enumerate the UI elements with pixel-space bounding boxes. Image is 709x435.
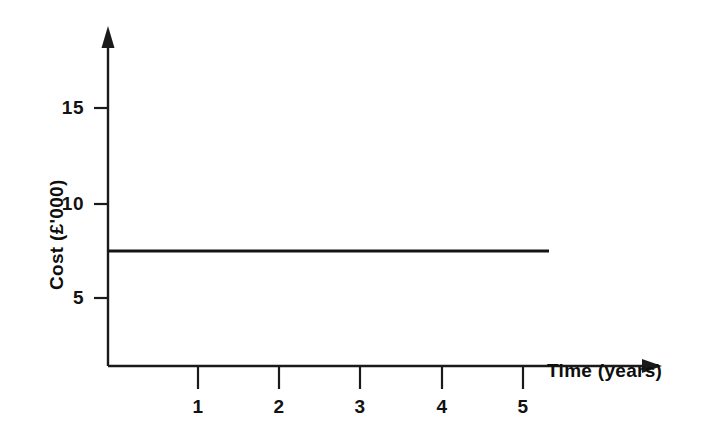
y-tick-label-15: 15 bbox=[40, 97, 84, 119]
x-tick-label-5: 5 bbox=[517, 396, 528, 418]
y-axis-title: Cost (£'000) bbox=[46, 179, 68, 290]
x-tick-label-1: 1 bbox=[192, 396, 203, 418]
x-tick-label-3: 3 bbox=[354, 396, 365, 418]
y-tick-label-5: 5 bbox=[40, 287, 84, 309]
y-axis-arrow-icon bbox=[102, 26, 115, 48]
x-tick-label-2: 2 bbox=[273, 396, 284, 418]
x-axis-title: Time (years) bbox=[547, 360, 662, 382]
chart-figure: 15 10 5 1 2 3 4 5 Cost (£'000) Time (yea… bbox=[0, 0, 709, 435]
x-tick-label-4: 4 bbox=[436, 396, 447, 418]
